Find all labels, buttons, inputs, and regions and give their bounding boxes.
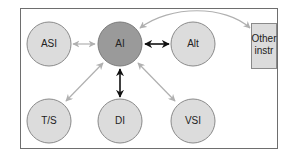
node-asi-label: ASI: [41, 38, 57, 49]
node-di-label: DI: [115, 115, 125, 126]
instrument-scan-diagram: AI ASI Alt T/S DI VSI Other instr: [0, 0, 296, 155]
node-ts-label: T/S: [41, 115, 57, 126]
node-di: DI: [98, 99, 142, 143]
edge-ai-vsi: [138, 63, 175, 101]
node-ts: T/S: [27, 99, 71, 143]
node-asi: ASI: [27, 22, 71, 66]
edge-ai-ts: [66, 63, 103, 101]
node-vsi: VSI: [171, 99, 215, 143]
node-other-instr: Other instr: [251, 24, 277, 69]
node-alt-label: Alt: [187, 38, 199, 49]
node-ai-label: AI: [115, 38, 124, 49]
node-other-label-line2: instr: [255, 45, 275, 56]
node-ai: AI: [98, 22, 142, 66]
node-other-label-line1: Other: [251, 33, 277, 44]
node-alt: Alt: [171, 22, 215, 66]
node-vsi-label: VSI: [185, 115, 201, 126]
